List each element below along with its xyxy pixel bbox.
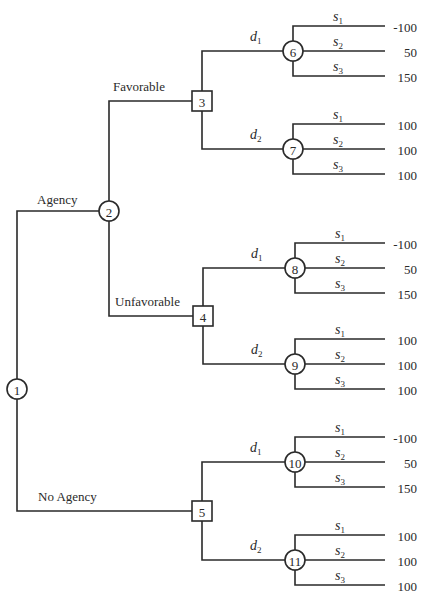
branch-decision-d1 (202, 462, 285, 501)
outcome-label-s1: s1 (335, 226, 345, 243)
outcome-label-s1: s1 (335, 322, 345, 339)
outcome-label-s3: s3 (335, 276, 345, 293)
branch-decision-d1 (203, 268, 285, 306)
outcome-label-s3: s3 (335, 470, 345, 487)
outcome-label-s3: s3 (335, 568, 345, 585)
decision-label-d2: d2 (250, 127, 262, 144)
outcome-label-s2: s2 (335, 251, 345, 268)
branch-agency (17, 211, 99, 379)
outcome-label-s1: s1 (335, 420, 345, 437)
node-number: 6 (290, 45, 297, 60)
node-number: 11 (289, 554, 302, 569)
outcome-label-s3: s3 (335, 372, 345, 389)
payoff-value: 100 (398, 168, 418, 183)
payoff-value: -100 (393, 237, 417, 252)
payoff-value: 50 (404, 456, 417, 471)
branch-decision-d1 (202, 51, 283, 91)
branch-label-no-agency: No Agency (38, 489, 97, 504)
outcome-label-s2: s2 (335, 543, 345, 560)
payoff-value: 150 (398, 70, 418, 85)
outcome-line (293, 26, 385, 41)
decision-label-d1: d1 (250, 440, 262, 457)
outcome-label-s2: s2 (335, 445, 345, 462)
payoff-value: 100 (398, 118, 418, 133)
payoff-value: -100 (393, 431, 417, 446)
outcome-label-s2: s2 (333, 34, 343, 51)
payoff-value: 100 (398, 529, 418, 544)
payoff-value: 150 (398, 287, 418, 302)
branch-favorable (109, 101, 192, 201)
outcome-label-s3: s3 (333, 157, 343, 174)
branch-label-unfavorable: Unfavorable (115, 294, 180, 309)
payoff-value: 100 (398, 579, 418, 594)
node-number: 9 (292, 358, 299, 373)
node-number: 7 (290, 143, 297, 158)
payoff-value: 50 (404, 262, 417, 277)
branch-decision-d2 (203, 326, 285, 364)
payoff-value: 150 (398, 481, 418, 496)
branch-label-favorable: Favorable (113, 79, 165, 94)
payoff-value: 100 (398, 358, 418, 373)
node-number: 8 (292, 262, 299, 277)
payoff-value: -100 (393, 20, 417, 35)
node-number: 4 (200, 310, 207, 325)
decision-label-d1: d1 (251, 246, 263, 263)
node-number: 10 (289, 456, 302, 471)
payoff-value: 100 (398, 143, 418, 158)
outcome-label-s1: s1 (333, 9, 343, 26)
outcome-label-s1: s1 (335, 518, 345, 535)
outcome-label-s2: s2 (333, 132, 343, 149)
payoff-value: 100 (398, 333, 418, 348)
node-number: 3 (199, 95, 206, 110)
payoff-value: 50 (404, 45, 417, 60)
outcome-label-s1: s1 (333, 107, 343, 124)
node-number: 1 (14, 383, 21, 398)
decision-tree: AgencyNo AgencyFavorableUnfavorabled1s1-… (0, 0, 423, 594)
payoff-value: 100 (398, 383, 418, 398)
decision-label-d2: d2 (250, 538, 262, 555)
outcome-label-s2: s2 (335, 347, 345, 364)
node-number: 2 (106, 205, 113, 220)
decision-label-d1: d1 (250, 29, 262, 46)
outcome-line (293, 124, 385, 139)
outcome-label-s3: s3 (333, 59, 343, 76)
decision-label-d2: d2 (251, 342, 263, 359)
node-number: 5 (199, 505, 206, 520)
branch-label-agency: Agency (37, 192, 78, 207)
branch-decision-d2 (202, 111, 283, 149)
branch-decision-d2 (202, 521, 285, 560)
payoff-value: 100 (398, 554, 418, 569)
